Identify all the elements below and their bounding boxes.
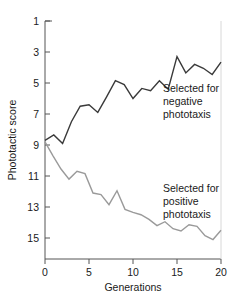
annotation-positive-line-3: phototaxis (163, 208, 211, 220)
x-tick-label-0: 0 (42, 266, 48, 278)
y-tick-label-1: 1 (33, 15, 39, 27)
annotation-positive-phototaxis: Selected for positive phototaxis (163, 182, 220, 220)
x-tick-label-20: 20 (215, 266, 227, 278)
x-tick-label-15: 15 (171, 266, 183, 278)
y-axis-ticks (45, 21, 50, 238)
axis-frame (45, 21, 221, 259)
x-axis-tick-labels: 0 5 10 15 20 (42, 266, 227, 278)
y-axis-title: Phototactic score (6, 100, 18, 181)
x-tick-label-10: 10 (127, 266, 139, 278)
y-axis-tick-labels: 1 3 5 7 9 11 13 15 (27, 15, 39, 244)
x-axis-ticks (45, 259, 221, 264)
y-tick-label-3: 3 (33, 46, 39, 58)
y-tick-label-7: 7 (33, 108, 39, 120)
annotation-negative-line-3: phototaxis (163, 108, 211, 120)
x-tick-label-5: 5 (86, 266, 92, 278)
chart-canvas: 1 3 5 7 9 11 13 15 0 5 10 15 20 Generati… (0, 0, 240, 295)
phototaxis-selection-chart: 1 3 5 7 9 11 13 15 0 5 10 15 20 Generati… (0, 0, 240, 295)
y-tick-label-9: 9 (33, 139, 39, 151)
annotation-negative-line-1: Selected for (163, 82, 220, 94)
y-tick-label-13: 13 (27, 201, 39, 213)
annotation-positive-line-2: positive (163, 195, 199, 207)
x-axis-title: Generations (104, 281, 161, 293)
y-tick-label-11: 11 (28, 170, 39, 182)
annotation-negative-line-2: negative (163, 95, 203, 107)
y-tick-label-5: 5 (33, 77, 39, 89)
y-tick-label-15: 15 (27, 232, 39, 244)
annotation-negative-phototaxis: Selected for negative phototaxis (163, 82, 220, 120)
annotation-positive-line-1: Selected for (163, 182, 220, 194)
